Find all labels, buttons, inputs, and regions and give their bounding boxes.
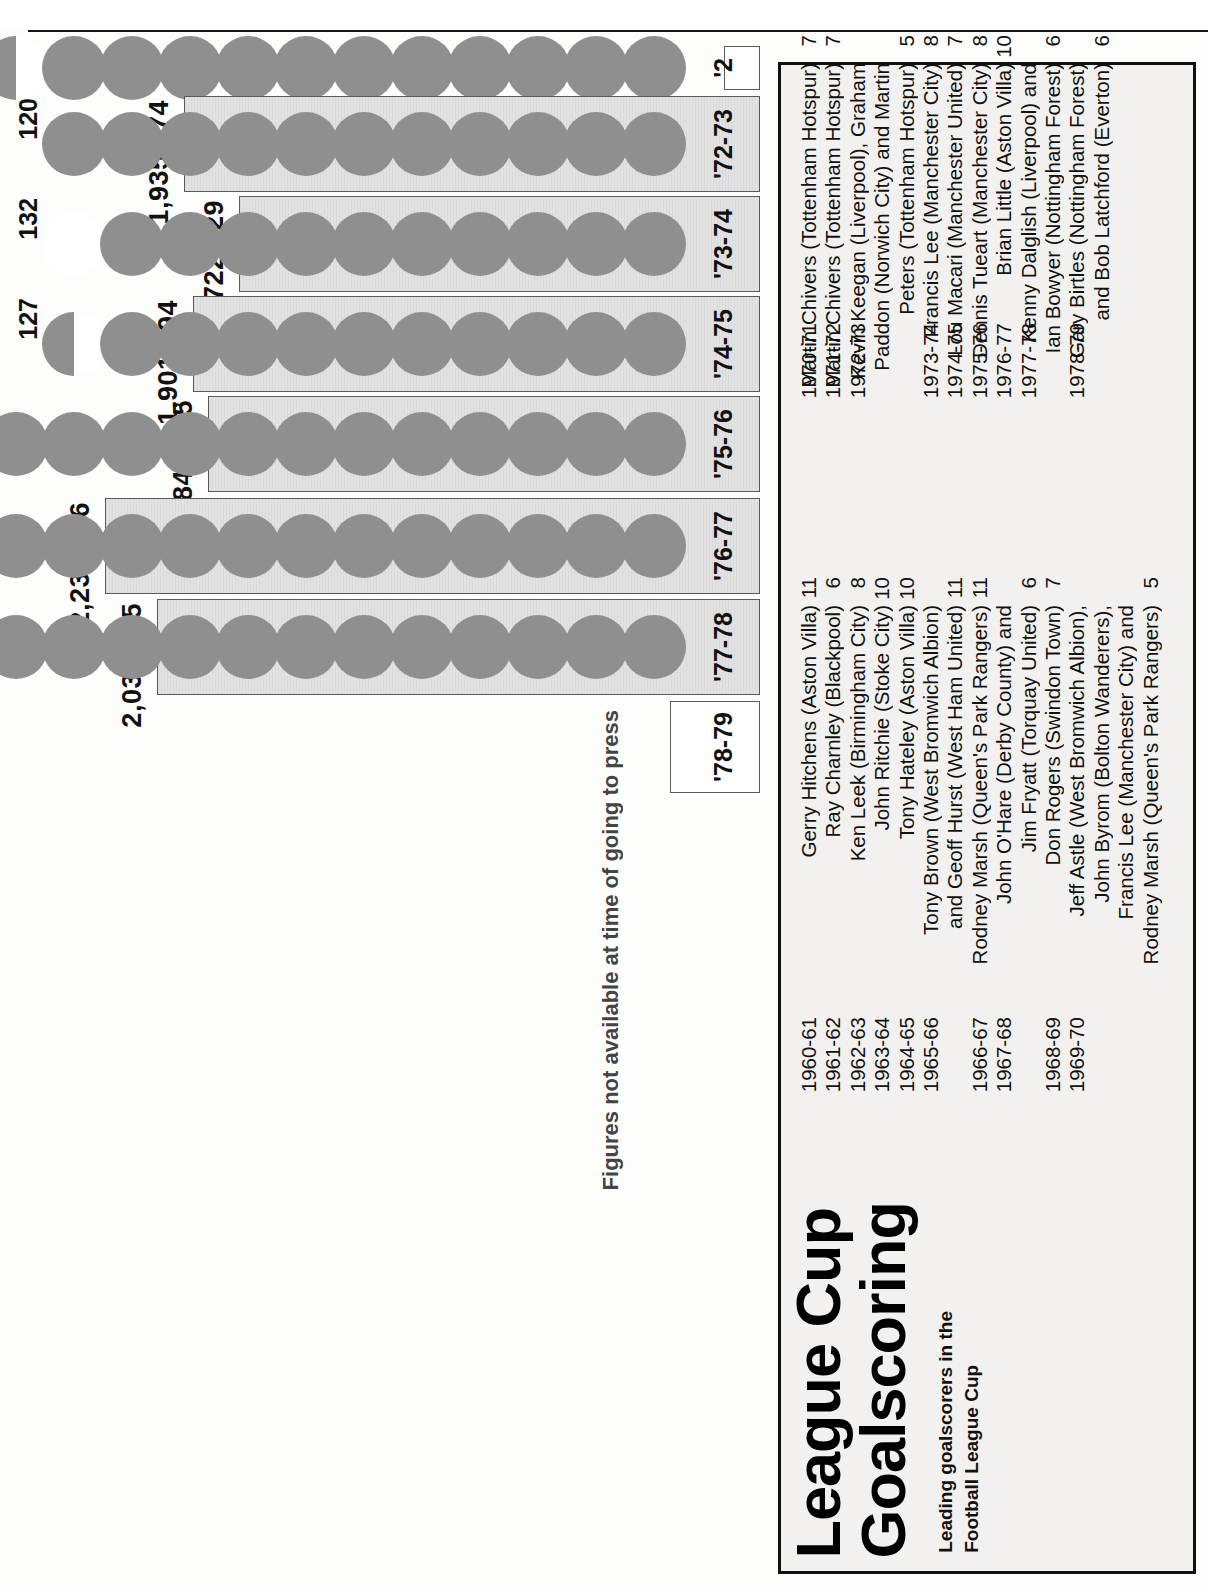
chart-season-band: '78-79: [0, 701, 760, 793]
goal-ball-icon: [506, 312, 570, 376]
goal-ball-icon: [158, 112, 222, 176]
goal-ball-icon: [390, 212, 454, 276]
goal-ball-icon: [448, 412, 512, 476]
scanned-page: 123'21,935,474120'72-731,722,629132'73-7…: [0, 0, 1208, 1591]
chart-season-band: 2,038,295148'77-78: [0, 599, 760, 695]
goal-ball-icon: [622, 514, 686, 578]
season-axis-label: '78-79: [686, 701, 760, 793]
goal-ball-icon: [158, 312, 222, 376]
chart-season-band: 1,901,094127'74-75: [0, 296, 760, 392]
goal-ball-icon: [216, 112, 280, 176]
season-axis-label: '76-77: [686, 498, 760, 594]
goal-ball-icon: [506, 514, 570, 578]
goal-ball-icon: [564, 615, 628, 679]
chart-season-band: 1,935,474120'72-73: [0, 96, 760, 192]
goal-ball-icon: [622, 615, 686, 679]
scan-top-margin: [0, 0, 1208, 30]
goal-ball-strip: [0, 46, 686, 90]
goal-ball-icon: [100, 514, 164, 578]
season-axis-label: '74-75: [686, 296, 760, 392]
goal-ball-icon: [564, 112, 628, 176]
goal-ball-icon: [332, 312, 396, 376]
goal-ball-icon: [42, 212, 106, 276]
goal-ball-strip: [0, 498, 686, 594]
goal-ball-icon: [216, 412, 280, 476]
goal-ball-icon: [0, 36, 48, 100]
season-axis-label-text: '78-79: [709, 712, 738, 782]
goal-ball-icon: [42, 615, 106, 679]
goal-ball-icon: [100, 112, 164, 176]
goal-ball-icon: [564, 514, 628, 578]
goal-ball-icon: [564, 412, 628, 476]
goal-ball-icon: [274, 514, 338, 578]
scorer-name: Martin Chivers (Tottenham Hotspur): [821, 63, 845, 388]
goal-ball-icon: [42, 312, 106, 376]
goal-ball-icon: [390, 36, 454, 100]
scorer-name: Lou Macari (Manchester United): [943, 63, 967, 356]
scorer-goals: 6: [1090, 35, 1114, 46]
scorer-goals: 7: [797, 35, 821, 46]
goal-ball-icon: [42, 112, 106, 176]
season-axis-label: '77-78: [686, 599, 760, 695]
goal-ball-icon: [100, 36, 164, 100]
scorer-name: Peters (Tottenham Hotspur): [895, 63, 919, 315]
goal-ball-icon: [274, 112, 338, 176]
goal-ball-icon: [216, 312, 280, 376]
goal-ball-icon: [390, 514, 454, 578]
goal-ball-icon: [158, 212, 222, 276]
attendance-goals-chart: 123'21,935,474120'72-731,722,629132'73-7…: [0, 46, 760, 1591]
scorer-name: Francis Lee (Manchester City): [919, 63, 943, 338]
scorer-goals: 5: [895, 35, 919, 46]
chart-season-band: 2,236,636147'76-77: [0, 498, 760, 594]
goal-ball-icon: [448, 212, 512, 276]
scorer-goals: 6: [1041, 35, 1065, 46]
goal-ball-icon: [506, 112, 570, 176]
goal-ball-icon: [274, 36, 338, 100]
goal-ball-icon: [100, 412, 164, 476]
scorer-goals: 8: [919, 35, 943, 46]
season-axis-label: '75-76: [686, 396, 760, 492]
goal-ball-icon: [216, 514, 280, 578]
scorer-goals: 10: [992, 35, 1016, 58]
goal-ball-strip: [0, 599, 686, 695]
goal-ball-icon: [390, 112, 454, 176]
scorer-name: Brian Little (Aston Villa): [992, 63, 1016, 276]
scorer-goals: 8: [968, 35, 992, 46]
goal-ball-icon: [158, 514, 222, 578]
goal-ball-icon: [274, 412, 338, 476]
page-top-rule: [30, 30, 1208, 32]
goal-ball-icon: [332, 36, 396, 100]
goal-ball-icon: [332, 112, 396, 176]
goal-ball-icon: [622, 412, 686, 476]
scorer-name: Paddon (Norwich City) and Martin: [870, 63, 894, 371]
season-axis-label-text: '72-73: [709, 109, 738, 179]
scorer-name: Kenny Dalglish (Liverpool) and: [1017, 63, 1041, 342]
goal-ball-icon: [506, 212, 570, 276]
chart-season-band: 1,722,629132'73-74: [0, 196, 760, 292]
goal-ball-icon: [42, 36, 106, 100]
chart-footnote: Figures not available at time of going t…: [598, 710, 624, 1190]
season-axis-label-text: '77-78: [709, 612, 738, 682]
goals-count-label: 127: [14, 298, 43, 340]
goal-ball-icon: [448, 112, 512, 176]
chart-season-band: 123'2: [0, 46, 760, 90]
goal-ball-icon: [390, 615, 454, 679]
goal-ball-icon: [216, 615, 280, 679]
goal-ball-icon: [100, 212, 164, 276]
goal-ball-icon: [216, 212, 280, 276]
scorer-goals: 7: [821, 35, 845, 46]
goal-ball-icon: [0, 615, 48, 679]
scorer-name: Martin Chivers (Tottenham Hotspur): [797, 63, 821, 388]
goal-ball-icon: [506, 36, 570, 100]
scorer-name: and Bob Latchford (Everton): [1090, 63, 1114, 321]
goal-ball-icon: [42, 412, 106, 476]
goal-ball-icon: [274, 615, 338, 679]
goal-ball-icon: [622, 112, 686, 176]
goal-ball-icon: [100, 615, 164, 679]
goal-ball-icon: [564, 212, 628, 276]
goal-ball-icon: [564, 36, 628, 100]
goal-ball-icon: [506, 412, 570, 476]
goal-ball-icon: [622, 312, 686, 376]
goal-ball-icon: [332, 514, 396, 578]
goal-ball-icon: [506, 615, 570, 679]
